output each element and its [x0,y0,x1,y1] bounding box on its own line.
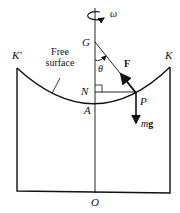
point-K-label: K [165,50,172,61]
force-F-label: F [124,59,130,69]
theta-label: θ [98,64,103,74]
omega-label: ω [110,9,117,19]
rotation-arrow-icon [88,12,104,20]
rotating-fluid-diagram: ω G θ F K′ K Free surface N P A mg O [0,0,180,213]
point-O-label: O [91,197,99,208]
gravity-g: g [148,118,153,129]
free-surface-leader [52,78,60,93]
point-K-prime-label: K′ [12,50,22,61]
free-surface-curve [17,67,170,104]
point-N-label: N [81,86,88,97]
point-P-label: P [140,96,147,107]
force-F-arrow [121,74,136,93]
point-G-label: G [82,37,90,48]
free-surface-label: Free surface [40,46,80,68]
weight-mg-label: mg [141,119,153,129]
free-surface-line1: Free [40,46,80,57]
free-surface-line2: surface [40,57,80,68]
point-A-label: A [84,105,91,116]
theta-arc [95,56,106,61]
right-angle-mark [95,85,102,92]
